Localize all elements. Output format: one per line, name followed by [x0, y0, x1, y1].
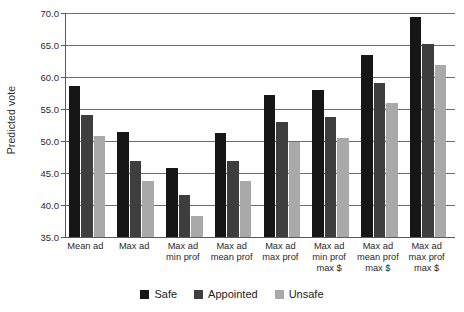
legend-label: Unsafe	[289, 288, 324, 300]
bar-appointed	[422, 44, 434, 237]
x-axis-tick-label: Max ad min prof max $	[305, 241, 354, 275]
bar-safe	[117, 132, 129, 237]
legend-swatch-safe	[140, 290, 149, 299]
x-axis-tick-label: Max ad mean prof	[207, 241, 256, 263]
bar-safe	[215, 133, 227, 237]
legend-swatch-unsafe	[275, 290, 284, 299]
bar-group	[310, 13, 359, 237]
bar-safe	[410, 17, 422, 237]
bar-appointed	[130, 161, 142, 237]
bar-appointed	[179, 195, 191, 237]
bar-appointed	[325, 117, 337, 237]
y-axis-tick-label: 40.0	[13, 200, 59, 211]
x-axis-tick-label: Max ad min prof	[159, 241, 208, 263]
bar-appointed	[81, 115, 93, 237]
x-axis-tick-label: Max ad mean prof max $	[354, 241, 403, 275]
bar-group	[66, 13, 115, 237]
y-axis-tick-label: 35.0	[13, 232, 59, 243]
bar-safe	[69, 86, 81, 237]
y-axis-tick-label: 45.0	[13, 168, 59, 179]
bar-unsafe	[435, 65, 447, 237]
x-axis-tick-label: Max ad max prof	[256, 241, 305, 263]
legend-item: Appointed	[194, 288, 258, 300]
bar-appointed	[227, 161, 239, 237]
bar-unsafe	[94, 136, 106, 237]
bar-group	[164, 13, 213, 237]
x-axis-tick-label: Max ad max prof max $	[402, 241, 451, 275]
bar-safe	[264, 95, 276, 237]
bar-group	[359, 13, 408, 237]
bar-group	[407, 13, 456, 237]
bar-group	[261, 13, 310, 237]
x-axis-tick-label: Max ad	[110, 241, 159, 252]
bar-unsafe	[337, 138, 349, 237]
x-axis-line	[65, 237, 455, 238]
legend-label: Safe	[154, 288, 177, 300]
bar-unsafe	[289, 142, 301, 237]
plot-area	[65, 13, 455, 237]
y-axis-tick-label: 50.0	[13, 136, 59, 147]
bar-safe	[166, 168, 178, 237]
bar-group	[212, 13, 261, 237]
y-axis-tick-label: 70.0	[13, 8, 59, 19]
bar-unsafe	[191, 216, 203, 237]
bar-chart-figure: Predicted vote 35.040.045.050.055.060.06…	[0, 0, 464, 312]
bar-unsafe	[142, 181, 154, 237]
legend-swatch-appointed	[194, 290, 203, 299]
bar-appointed	[374, 83, 386, 237]
y-axis-tick-label: 55.0	[13, 104, 59, 115]
x-axis-tick-label: Mean ad	[61, 241, 110, 252]
y-axis-tick-label: 65.0	[13, 40, 59, 51]
y-axis-tick-label: 60.0	[13, 72, 59, 83]
chart-legend: SafeAppointedUnsafe	[0, 288, 464, 300]
legend-item: Unsafe	[275, 288, 324, 300]
bar-appointed	[276, 122, 288, 237]
bar-unsafe	[240, 181, 252, 237]
legend-item: Safe	[140, 288, 177, 300]
bar-safe	[361, 55, 373, 237]
bar-safe	[312, 90, 324, 237]
bar-group	[115, 13, 164, 237]
bar-unsafe	[386, 103, 398, 237]
legend-label: Appointed	[208, 288, 258, 300]
